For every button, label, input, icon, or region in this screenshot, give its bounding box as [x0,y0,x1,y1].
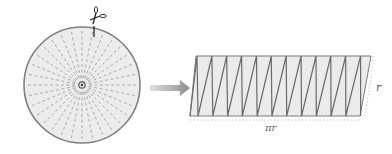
circle-to-parallelogram-diagram: r πr [0,0,392,154]
right-arrow-icon [150,80,190,96]
height-label: r [376,81,382,94]
width-label: πr [264,122,278,133]
rearranged-sectors-parallelogram [190,56,374,120]
cut-circle [24,26,140,143]
scissors-icon [90,7,106,24]
